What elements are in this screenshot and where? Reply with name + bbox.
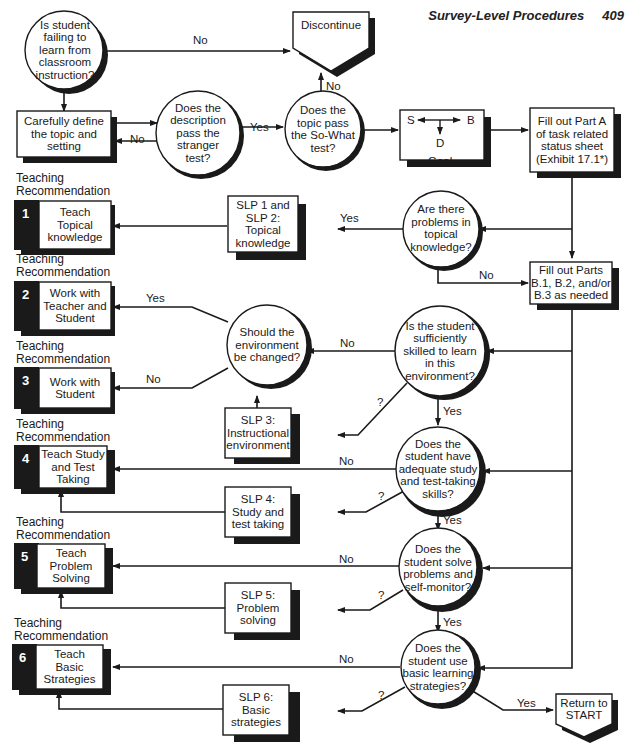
environment-question-text: Should the environment be changed? bbox=[229, 322, 305, 368]
edge-label-skilled-maybe: ? bbox=[377, 396, 383, 408]
edge-label-study-maybe: ? bbox=[378, 490, 384, 502]
rec-heading-1: Teaching Recommendation bbox=[16, 172, 110, 198]
skilled-question-text: Is the student sufficiently skilled to l… bbox=[397, 313, 483, 389]
edge-study-maybe bbox=[338, 491, 404, 512]
edge-label-stranger-yes: Yes bbox=[250, 121, 269, 133]
so-what-test-text: Does the topic pass the So-What test? bbox=[286, 100, 360, 158]
edge-label-solve-maybe: ? bbox=[378, 589, 384, 601]
edge-label-study-yes: Yes bbox=[443, 514, 462, 526]
edge-strategies-maybe bbox=[338, 687, 405, 711]
rec-heading-4: Teaching Recommendation bbox=[16, 418, 110, 444]
topical-question-text: Are there problems in topical knowledge? bbox=[405, 196, 477, 260]
edge-label-stranger-no: No bbox=[130, 133, 145, 145]
edge-label-solve-yes: Yes bbox=[443, 616, 462, 628]
rec-number-6: 6 bbox=[19, 650, 26, 665]
edge-label-strategies-yes: Yes bbox=[517, 697, 536, 709]
edge-label-skilled-no: No bbox=[340, 337, 355, 349]
stranger-test-text: Does the description pass the stranger t… bbox=[158, 95, 238, 171]
slp5-text: SLP 5: Problem solving bbox=[225, 583, 291, 633]
rec-number-1: 1 bbox=[22, 206, 29, 221]
slp12-text: SLP 1 and SLP 2: Topical knowledge bbox=[228, 196, 298, 252]
rec-number-3: 3 bbox=[22, 373, 29, 388]
return-start-text: Return to START bbox=[556, 694, 612, 724]
parts-b-text: Fill out Parts B.1, B.2, and/or B.3 as n… bbox=[530, 262, 612, 304]
slp6-text: SLP 6: Basic strategies bbox=[223, 685, 289, 735]
edge-label-topical-yes: Yes bbox=[340, 212, 359, 224]
discontinue-text: Discontinue bbox=[293, 14, 369, 36]
edge-label-strategies-maybe: ? bbox=[378, 689, 384, 701]
rec-number-5: 5 bbox=[21, 549, 28, 564]
goal-label: Goal bbox=[428, 155, 452, 167]
rec-heading-3: Teaching Recommendation bbox=[16, 340, 110, 366]
rec-text-3: Work with Student bbox=[39, 368, 111, 408]
edge-label-skilled-yes: Yes bbox=[443, 405, 462, 417]
slp3-text: SLP 3: Instructional environment bbox=[225, 408, 291, 458]
goal-d-label: D bbox=[436, 137, 444, 149]
define-topic-text: Carefully define the topic and setting bbox=[17, 111, 111, 157]
rec-number-2: 2 bbox=[22, 287, 29, 302]
start-question-text: Is student failing to learn from classro… bbox=[27, 12, 103, 88]
rec-heading-5: Teaching Recommendation bbox=[16, 516, 110, 542]
part-a-text: Fill out Part A of task related status s… bbox=[530, 108, 614, 172]
edge-label-start-no: No bbox=[193, 34, 208, 46]
rec-text-1: Teach Topical knowledge bbox=[39, 201, 111, 249]
edge-label-solve-no: No bbox=[339, 553, 354, 565]
edge-label-strategies-no: No bbox=[339, 653, 354, 665]
rec-text-2: Work with Teacher and Student bbox=[39, 282, 111, 330]
edge-label-study-no: No bbox=[339, 455, 354, 467]
rec-text-6: Teach Basic Strategies bbox=[36, 645, 103, 689]
edge-env-no bbox=[113, 368, 228, 388]
edge-strategies-yes bbox=[471, 690, 553, 710]
goal-s-label: S bbox=[407, 114, 415, 126]
rec-number-4: 4 bbox=[22, 451, 29, 466]
rec-text-4: Teach Study and Test Taking bbox=[39, 446, 107, 488]
slp4-text: SLP 4: Study and test taking bbox=[225, 487, 291, 537]
rec-heading-2: Teaching Recommendation bbox=[16, 253, 110, 279]
edge-label-sowhat-no: No bbox=[326, 80, 341, 92]
solve-question-text: Does the student solve problems and self… bbox=[400, 540, 476, 596]
edge-label-env-no: No bbox=[146, 373, 161, 385]
goal-b-label: B bbox=[467, 114, 475, 126]
edge-solve-maybe bbox=[338, 590, 403, 610]
study-question-text: Does the student have adequate study and… bbox=[398, 434, 478, 504]
edge-skilled-maybe bbox=[338, 383, 407, 435]
edge-label-env-yes: Yes bbox=[146, 292, 165, 304]
rec-heading-6: Teaching Recommendation bbox=[14, 617, 108, 643]
edge-label-topical-no: No bbox=[479, 269, 494, 281]
edge-partsb-trunk bbox=[478, 305, 572, 668]
edge-env-yes bbox=[113, 307, 228, 322]
strategies-question-text: Does the student use basic learning stra… bbox=[401, 640, 475, 694]
rec-text-5: Teach Problem Solving bbox=[37, 544, 105, 588]
